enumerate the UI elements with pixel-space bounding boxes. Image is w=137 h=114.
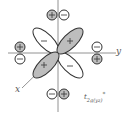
x-axis-label: x: [15, 84, 20, 94]
orbital-diagram: [0, 0, 137, 114]
y-axis-label: y: [116, 46, 121, 56]
orbital-label: t2g(yz)*: [84, 91, 106, 103]
orbital-label-superscript: *: [103, 91, 106, 97]
orbital-label-subscript: 2g(yz): [87, 97, 103, 103]
